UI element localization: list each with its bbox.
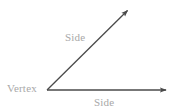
side-label-lower: Side bbox=[94, 97, 114, 108]
angle-diagram: Vertex Side Side bbox=[0, 0, 173, 112]
vertex-label: Vertex bbox=[7, 83, 37, 94]
side-label-upper: Side bbox=[65, 32, 85, 43]
diagonal-ray bbox=[47, 11, 128, 91]
angle-figure-svg bbox=[0, 0, 173, 112]
